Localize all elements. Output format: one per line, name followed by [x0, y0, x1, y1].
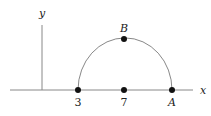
semicircle-arc [78, 38, 172, 90]
x-axis-label: x [200, 84, 207, 97]
point-7-label: 7 [121, 96, 128, 109]
point-3 [75, 87, 81, 93]
point-3-label: 3 [75, 96, 82, 109]
diagram-canvas: x y 3 7 A B [0, 0, 211, 116]
point-a-label: A [167, 96, 176, 109]
point-a [169, 87, 175, 93]
point-b [121, 36, 127, 42]
y-axis-label: y [38, 7, 46, 20]
point-7 [121, 87, 127, 93]
point-b-label: B [119, 22, 128, 35]
